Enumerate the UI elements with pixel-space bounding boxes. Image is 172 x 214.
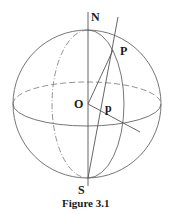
label-north: N xyxy=(91,10,100,24)
equator-front xyxy=(13,104,161,126)
equator-back xyxy=(13,82,161,104)
label-point-upper: P xyxy=(120,44,127,58)
figure-caption: Figure 3.1 xyxy=(62,197,109,209)
label-center: O xyxy=(74,97,83,111)
projection-line-s-to-p xyxy=(88,17,118,178)
sphere-outline xyxy=(13,30,161,178)
label-south: S xyxy=(78,183,85,197)
radius-o-to-p xyxy=(88,50,113,104)
sphere-diagram: N P O p S Figure 3.1 xyxy=(0,0,172,214)
line-o-through-p-lower xyxy=(88,104,140,132)
label-point-lower: p xyxy=(105,101,112,115)
